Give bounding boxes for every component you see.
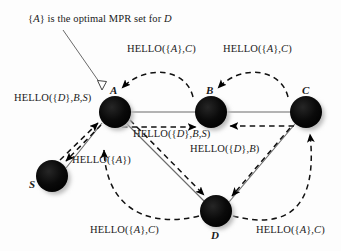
node-D-circle bbox=[200, 195, 232, 227]
node-S[interactable] bbox=[36, 160, 71, 195]
node-C-circle bbox=[290, 96, 322, 128]
node-label-B: B bbox=[206, 85, 213, 96]
caption-leader-arrowhead bbox=[98, 81, 107, 91]
node-label-S: S bbox=[29, 179, 35, 190]
arrow-B-to-A bbox=[122, 72, 193, 97]
node-B[interactable] bbox=[195, 96, 230, 131]
node-label-A: A bbox=[110, 85, 117, 96]
arrow-C-to-B bbox=[218, 72, 288, 97]
figure-canvas: {A} is the optimal MPR set for D HELLO({… bbox=[0, 0, 341, 251]
figure-caption: {A} is the optimal MPR set for D bbox=[28, 14, 172, 25]
node-C[interactable] bbox=[290, 96, 325, 131]
node-S-circle bbox=[36, 160, 68, 192]
node-label-C: C bbox=[302, 85, 309, 96]
node-A-circle bbox=[99, 96, 131, 128]
message-arrows bbox=[60, 72, 311, 220]
message-label-top-left: HELLO({A},C) bbox=[127, 44, 196, 55]
caption-leader-line bbox=[63, 30, 102, 86]
message-label-bottom-right: HELLO({A},C) bbox=[256, 225, 325, 236]
message-label-left: HELLO({D},B,S) bbox=[14, 93, 91, 104]
node-B-circle bbox=[195, 96, 227, 128]
message-label-top-right: HELLO({A},C) bbox=[223, 44, 292, 55]
message-label-right-mid: HELLO({D},B) bbox=[190, 144, 259, 155]
message-label-near-s: HELLO({A}) bbox=[72, 155, 131, 166]
node-label-D: D bbox=[211, 230, 219, 241]
node-D[interactable] bbox=[200, 195, 235, 230]
caption-leader bbox=[63, 30, 107, 90]
network-diagram bbox=[0, 0, 341, 251]
message-label-bottom-left: HELLO({A},C) bbox=[90, 225, 159, 236]
link-C-D bbox=[229, 124, 295, 202]
node-A[interactable] bbox=[99, 96, 134, 131]
arrow-C-to-D bbox=[232, 128, 290, 196]
message-label-center: HELLO({D},B,S) bbox=[133, 129, 210, 140]
